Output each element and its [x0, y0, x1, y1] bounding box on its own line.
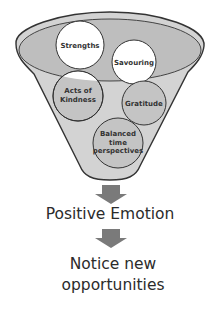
acts-of-kindness-label-line1: Acts of: [64, 87, 92, 95]
step-notice-line1: Notice new: [70, 255, 157, 273]
down-arrow-icon: [95, 229, 127, 248]
funnel-opening: [19, 19, 201, 81]
funnel-diagram: Strengths Savouring Acts of Kindness Gra…: [0, 0, 220, 309]
gratitude-label: Gratitude: [125, 100, 163, 108]
savouring-label: Savouring: [114, 59, 154, 67]
balanced-label-line1: Balanced: [100, 130, 136, 138]
funnel-item-balanced-time-perspectives: Balanced time perspectives: [93, 118, 144, 168]
strengths-label: Strengths: [60, 42, 99, 50]
balanced-label-line3: perspectives: [93, 147, 144, 155]
funnel-item-strengths: Strengths: [56, 21, 104, 69]
down-arrow-icon: [95, 185, 127, 204]
balanced-label-line2: time: [109, 139, 127, 147]
acts-of-kindness-label-line2: Kindness: [60, 96, 96, 104]
step-notice-line2: opportunities: [61, 276, 164, 294]
funnel-item-acts-of-kindness: Acts of Kindness: [53, 71, 103, 121]
step-positive-emotion: Positive Emotion: [46, 205, 175, 223]
funnel-item-gratitude: Gratitude: [122, 81, 166, 125]
funnel-item-savouring: Savouring: [112, 40, 156, 84]
